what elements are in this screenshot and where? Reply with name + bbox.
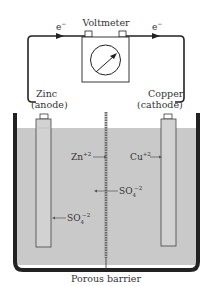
cathode-connector — [164, 114, 172, 119]
electron-flow-arrow-left — [56, 33, 64, 39]
cathode-role-label: (cathode) — [137, 99, 183, 110]
cathode-metal-label: Copper — [148, 88, 184, 99]
anode-role-label: (anode) — [31, 99, 68, 110]
anode-metal-label: Zinc — [36, 88, 57, 99]
voltmeter-terminal-right — [119, 31, 126, 37]
voltmeter-terminal-left — [85, 31, 92, 37]
voltmeter-dial — [91, 45, 121, 75]
copper-electrode — [161, 119, 176, 246]
anode-connector — [40, 114, 48, 119]
zinc-electrode — [36, 119, 51, 247]
porous-barrier-label: Porous barrier — [71, 273, 141, 284]
electron-label-left: e− — [56, 20, 66, 32]
voltmeter-label: Voltmeter — [81, 17, 130, 28]
electron-label-right: e− — [152, 20, 162, 32]
electron-flow-arrow-right — [152, 33, 160, 39]
galvanic-cell-diagram: e− e− Voltmeter Zinc (anode) Copper (cat… — [0, 0, 211, 286]
